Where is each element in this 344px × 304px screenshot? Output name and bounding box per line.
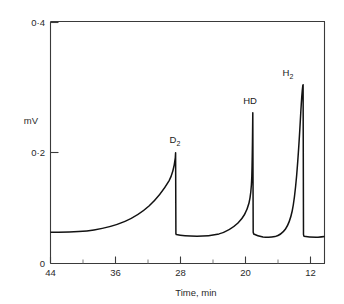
x-axis-title: Time, min — [175, 287, 216, 298]
x-axis-major-ticks — [51, 257, 311, 264]
x-tick-label-28: 28 — [175, 267, 186, 278]
peak-label-d2: D2 — [170, 134, 181, 147]
peak-label-hd: HD — [243, 95, 257, 106]
peak-label-h2: H2 — [283, 67, 294, 80]
chromatogram-trace — [51, 85, 325, 238]
x-tick-label-12: 12 — [305, 267, 316, 278]
x-tick-label-20: 20 — [240, 267, 251, 278]
y-axis-ticks — [51, 23, 59, 153]
y-axis-title: mV — [24, 115, 39, 126]
x-tick-label-44: 44 — [45, 267, 56, 278]
y-tick-label-0: 0 — [40, 258, 45, 269]
y-tick-label-0-2: 0·2 — [31, 147, 45, 158]
x-tick-label-36: 36 — [110, 267, 121, 278]
y-tick-label-0-4: 0·4 — [31, 17, 45, 28]
chromatogram-figure: 0·4 0·2 0 mV 44 36 28 20 12 Time, min D2… — [0, 0, 344, 304]
chart-canvas: 0·4 0·2 0 mV 44 36 28 20 12 Time, min D2… — [0, 0, 344, 304]
plot-frame — [51, 22, 326, 264]
